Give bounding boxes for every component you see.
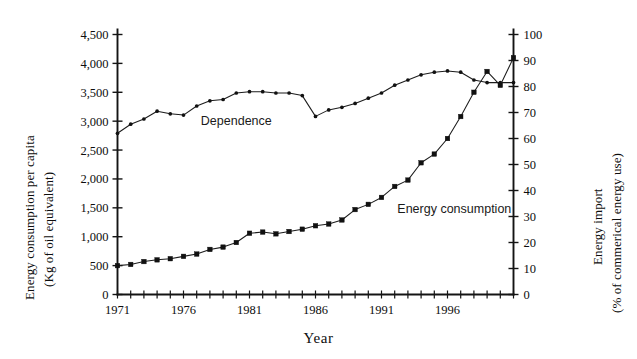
data-point-marker xyxy=(380,91,384,95)
left-tick-label: 1,000 xyxy=(80,230,108,244)
data-point-marker xyxy=(406,78,410,82)
data-point-marker xyxy=(208,99,212,103)
data-point-marker xyxy=(314,115,318,119)
data-point-marker xyxy=(485,69,490,74)
data-point-marker xyxy=(511,55,516,60)
data-point-marker xyxy=(155,258,160,263)
right-tick-label: 20 xyxy=(524,236,537,250)
data-point-marker xyxy=(445,136,450,141)
data-point-marker xyxy=(115,263,120,268)
plot-area: 05001,0001,5002,0002,5003,0003,5004,0004… xyxy=(0,0,637,359)
right-tick-label: 80 xyxy=(524,80,537,94)
right-tick-label: 30 xyxy=(524,210,537,224)
data-point-marker xyxy=(287,91,291,95)
left-tick-label: 0 xyxy=(102,288,108,302)
data-point-marker xyxy=(512,81,516,85)
right-axis-title: Energy import (% of commerical energy us… xyxy=(572,0,637,330)
right-tick-label: 90 xyxy=(524,54,537,68)
data-point-marker xyxy=(472,90,477,95)
data-point-marker xyxy=(327,108,331,112)
x-tick-label: 1996 xyxy=(435,303,460,317)
x-tick-label: 1986 xyxy=(303,303,328,317)
left-axis-title-line1: Energy consumption per capita xyxy=(22,135,38,300)
data-point-marker xyxy=(234,240,239,245)
data-point-marker xyxy=(128,262,133,267)
tick-marks xyxy=(113,35,519,299)
data-point-marker xyxy=(274,232,279,237)
data-point-marker xyxy=(432,152,437,157)
data-point-marker xyxy=(129,122,133,126)
data-point-marker xyxy=(182,113,186,117)
data-point-marker xyxy=(221,245,226,250)
data-point-marker xyxy=(353,207,358,212)
data-point-marker xyxy=(287,229,292,234)
data-point-marker xyxy=(300,227,305,232)
chart-figure: Energy consumption per capita (Kg of oil… xyxy=(0,0,637,359)
right-tick-label: 60 xyxy=(524,132,537,146)
x-axis-title-text: Year xyxy=(303,330,333,346)
data-point-marker xyxy=(274,91,278,95)
left-tick-label: 3,500 xyxy=(80,86,108,100)
data-series-group xyxy=(115,55,516,268)
data-point-marker xyxy=(313,223,318,228)
data-point-marker xyxy=(208,247,213,252)
data-point-marker xyxy=(406,178,411,183)
data-point-marker xyxy=(419,160,424,165)
left-tick-label: 4,000 xyxy=(80,57,108,71)
left-axis-title-line2: (Kg of oil equivalent) xyxy=(41,172,57,287)
right-tick-label: 50 xyxy=(524,158,537,172)
data-point-marker xyxy=(248,90,252,94)
data-point-marker xyxy=(195,104,199,108)
data-point-marker xyxy=(247,231,252,236)
data-point-marker xyxy=(393,83,397,87)
data-point-marker xyxy=(446,69,450,73)
series-annotations: DependenceEnergy consumption xyxy=(201,114,511,217)
left-tick-label: 4,500 xyxy=(80,28,108,42)
data-point-marker xyxy=(181,254,186,259)
data-point-marker xyxy=(432,70,436,74)
data-point-marker xyxy=(366,202,371,207)
data-point-marker xyxy=(168,256,173,261)
data-point-marker xyxy=(300,94,304,98)
right-tick-labels: 0102030405060708090100 xyxy=(524,28,543,302)
data-point-marker xyxy=(459,70,463,74)
series-annotation-1: Dependence xyxy=(201,114,272,128)
x-axis-title: Year xyxy=(0,330,637,347)
right-tick-label: 10 xyxy=(524,262,537,276)
left-tick-label: 2,000 xyxy=(80,172,108,186)
data-point-marker xyxy=(194,252,199,257)
data-point-marker xyxy=(142,117,146,121)
x-tick-label: 1981 xyxy=(237,303,262,317)
data-point-marker xyxy=(472,78,476,82)
right-tick-label: 40 xyxy=(524,184,537,198)
data-point-marker xyxy=(340,218,345,223)
data-point-marker xyxy=(260,230,265,235)
x-tick-label: 1976 xyxy=(171,303,196,317)
left-tick-label: 500 xyxy=(90,259,109,273)
data-point-marker xyxy=(485,81,489,85)
data-point-marker xyxy=(221,98,225,102)
data-point-marker xyxy=(366,96,370,100)
data-point-marker xyxy=(168,112,172,116)
left-tick-label: 2,500 xyxy=(80,144,108,158)
data-point-marker xyxy=(379,195,384,200)
data-point-marker xyxy=(326,222,331,227)
right-tick-label: 70 xyxy=(524,106,537,120)
data-point-marker xyxy=(116,131,120,135)
data-point-marker xyxy=(353,102,357,106)
right-axis-title-line1: Energy import xyxy=(590,188,606,265)
series-line-1 xyxy=(118,71,514,133)
series-annotation-2: Energy consumption xyxy=(397,202,511,216)
left-tick-label: 1,500 xyxy=(80,201,108,215)
data-point-marker xyxy=(392,184,397,189)
x-tick-labels: 197119761981198619911996 xyxy=(105,303,460,317)
x-tick-label: 1991 xyxy=(369,303,394,317)
data-point-marker xyxy=(261,90,265,94)
data-point-marker xyxy=(155,109,159,113)
left-axis-title: Energy consumption per capita (Kg of oil… xyxy=(0,0,62,330)
left-tick-labels: 05001,0001,5002,0002,5003,0003,5004,0004… xyxy=(80,28,108,302)
axis-lines xyxy=(118,30,514,295)
right-tick-label: 100 xyxy=(524,28,543,42)
series-line-2 xyxy=(118,58,514,266)
data-point-marker xyxy=(458,114,463,119)
